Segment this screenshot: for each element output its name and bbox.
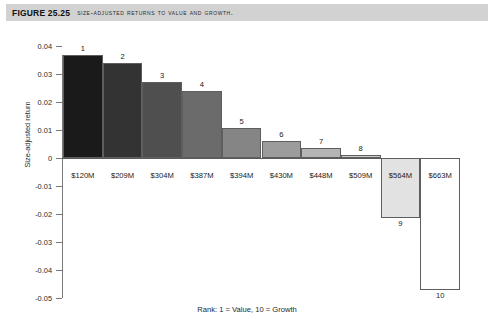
bar-category-label: $120M (63, 171, 103, 180)
bar-category-label: $509M (341, 171, 381, 180)
bar-rank-label: 2 (103, 52, 143, 61)
y-axis-tick (56, 242, 62, 243)
y-axis-tick-label: 0.04 (18, 42, 52, 51)
y-axis-tick-label: -0.04 (18, 266, 52, 275)
bar (341, 155, 381, 158)
bar-rank-label: 3 (142, 71, 182, 80)
bar-category-label: $663M (420, 171, 460, 180)
bar-rank-label: 8 (341, 144, 381, 153)
bar-rank-label: 1 (63, 44, 103, 53)
y-axis-tick (56, 46, 62, 47)
y-axis-tick (56, 102, 62, 103)
bar (381, 158, 421, 218)
bar-rank-label: 7 (301, 137, 341, 146)
y-axis-tick-label: -0.02 (18, 210, 52, 219)
y-axis-tick (56, 298, 62, 299)
bar-rank-label: 5 (222, 117, 262, 126)
y-axis-tick (56, 186, 62, 187)
bar-chart: 0.040.030.020.010-0.01-0.02-0.03-0.04-0.… (0, 0, 494, 328)
y-axis-tick-label: -0.05 (18, 294, 52, 303)
bar (63, 55, 103, 158)
y-axis-tick-label: 0.03 (18, 70, 52, 79)
bar-category-label: $394M (222, 171, 262, 180)
y-axis-tick-label: -0.03 (18, 238, 52, 247)
chart-caption: Rank: 1 = Value, 10 = Growth (0, 305, 494, 314)
bar-category-label: $304M (142, 171, 182, 180)
bar (142, 82, 182, 158)
bar-category-label: $430M (262, 171, 302, 180)
y-axis-tick (56, 130, 62, 131)
y-axis-tick (56, 74, 62, 75)
bar-category-label: $387M (182, 171, 222, 180)
bar (222, 128, 262, 158)
bar-category-label: $209M (103, 171, 143, 180)
y-axis-tick (56, 214, 62, 215)
bar (103, 63, 143, 158)
bar (301, 148, 341, 158)
bar-rank-label: 9 (381, 219, 421, 228)
bar-rank-label: 10 (420, 291, 460, 300)
bar (262, 141, 302, 158)
bar-category-label: $448M (301, 171, 341, 180)
bar (182, 91, 222, 158)
bar-category-label: $564M (381, 171, 421, 180)
bar-rank-label: 6 (262, 130, 302, 139)
y-axis-title: Size-adjusted return (23, 80, 32, 190)
y-axis-tick (56, 270, 62, 271)
bar-rank-label: 4 (182, 80, 222, 89)
